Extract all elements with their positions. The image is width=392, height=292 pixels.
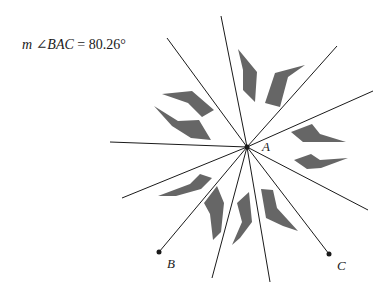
polygon-image[interactable]: [238, 49, 257, 102]
polygon-image[interactable]: [261, 189, 298, 231]
polygon-image[interactable]: [291, 124, 346, 142]
polygon-image[interactable]: [162, 91, 214, 117]
reflection-diagram: A B C: [0, 0, 392, 292]
geometry-canvas: m ∠BAC = 80.26°: [0, 0, 392, 292]
label-C: C: [337, 258, 346, 273]
polygon-image[interactable]: [265, 65, 305, 107]
point-B[interactable]: [157, 250, 162, 255]
label-B: B: [167, 256, 175, 271]
reflected-shapes: [154, 49, 348, 245]
polygon-image[interactable]: [294, 154, 348, 169]
point-C[interactable]: [327, 252, 332, 257]
mirror-line[interactable]: [110, 142, 247, 147]
point-A[interactable]: [245, 145, 250, 150]
polygon-image[interactable]: [158, 174, 212, 196]
label-A: A: [261, 139, 270, 154]
ray-AB[interactable]: [159, 147, 247, 252]
polygon-image[interactable]: [232, 192, 252, 245]
